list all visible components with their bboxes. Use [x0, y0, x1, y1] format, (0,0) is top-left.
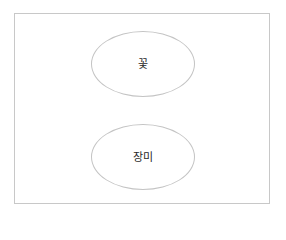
ellipse-node-rose: 장미 [91, 124, 195, 190]
node-label-rose: 장미 [133, 152, 153, 163]
node-label-flower: 꽃 [138, 59, 148, 70]
ellipse-node-flower: 꽃 [91, 31, 195, 97]
